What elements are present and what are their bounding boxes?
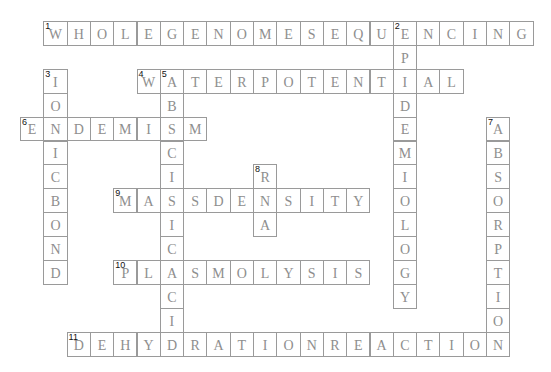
crossword-cell[interactable]: 3I [43,69,67,94]
crossword-cell[interactable]: 5A [160,69,184,94]
crossword-cell[interactable]: A [160,260,184,285]
crossword-cell[interactable]: L [439,69,463,94]
crossword-cell[interactable]: D [67,117,91,142]
crossword-cell[interactable]: P [253,69,277,94]
crossword-cell[interactable]: L [253,260,277,285]
crossword-cell[interactable]: I [300,188,324,213]
crossword-cell[interactable]: D [206,188,230,213]
crossword-cell[interactable]: O [486,308,510,333]
crossword-cell[interactable]: P [393,45,417,70]
crossword-cell[interactable]: L [113,21,137,46]
crossword-cell[interactable]: O [43,212,67,237]
crossword-cell[interactable]: G [160,21,184,46]
crossword-cell[interactable]: O [43,93,67,118]
crossword-cell[interactable]: E [206,69,230,94]
crossword-cell[interactable]: C [160,236,184,261]
crossword-cell[interactable]: T [300,69,324,94]
crossword-cell[interactable]: 10P [113,260,137,285]
crossword-cell[interactable]: 6E [20,117,44,142]
crossword-cell[interactable]: O [230,21,254,46]
crossword-cell[interactable]: A [416,69,440,94]
crossword-cell[interactable]: I [486,284,510,309]
crossword-cell[interactable]: M [393,141,417,166]
crossword-cell[interactable]: S [183,260,207,285]
crossword-cell[interactable]: T [183,69,207,94]
crossword-cell[interactable]: N [206,21,230,46]
crossword-cell[interactable]: T [486,260,510,285]
crossword-cell[interactable]: E [137,21,161,46]
crossword-cell[interactable]: I [160,164,184,189]
crossword-cell[interactable]: R [486,212,510,237]
crossword-cell[interactable]: O [276,332,300,357]
crossword-cell[interactable]: 7A [486,117,510,142]
crossword-cell[interactable]: I [160,212,184,237]
crossword-cell[interactable]: I [160,308,184,333]
crossword-cell[interactable]: B [43,188,67,213]
crossword-cell[interactable]: A [370,332,394,357]
crossword-cell[interactable]: S [276,188,300,213]
crossword-cell[interactable]: S [160,117,184,142]
crossword-cell[interactable]: D [160,332,184,357]
crossword-cell[interactable]: G [393,260,417,285]
crossword-cell[interactable]: D [393,93,417,118]
crossword-cell[interactable]: T [323,188,347,213]
crossword-cell[interactable]: S [346,260,370,285]
crossword-cell[interactable]: E [90,332,114,357]
crossword-cell[interactable]: 8R [253,164,277,189]
crossword-cell[interactable]: C [160,284,184,309]
crossword-cell[interactable]: N [486,332,510,357]
crossword-cell[interactable]: N [43,236,67,261]
crossword-cell[interactable]: M [113,117,137,142]
crossword-cell[interactable]: E [323,21,347,46]
crossword-cell[interactable]: I [253,332,277,357]
crossword-cell[interactable]: I [43,141,67,166]
crossword-cell[interactable]: O [463,332,487,357]
crossword-cell[interactable]: Y [137,332,161,357]
crossword-cell[interactable]: Y [393,284,417,309]
crossword-cell[interactable]: E [346,332,370,357]
crossword-cell[interactable]: S [300,21,324,46]
crossword-cell[interactable]: I [439,332,463,357]
crossword-cell[interactable]: E [183,21,207,46]
crossword-cell[interactable]: O [90,21,114,46]
crossword-cell[interactable]: E [276,21,300,46]
crossword-cell[interactable]: N [486,21,510,46]
crossword-cell[interactable]: I [393,164,417,189]
crossword-cell[interactable]: O [393,236,417,261]
crossword-cell[interactable]: C [43,164,67,189]
crossword-cell[interactable]: L [137,260,161,285]
crossword-cell[interactable]: S [183,188,207,213]
crossword-cell[interactable]: R [230,69,254,94]
crossword-cell[interactable]: Y [276,260,300,285]
crossword-cell[interactable]: M [253,21,277,46]
crossword-cell[interactable]: Q [346,21,370,46]
crossword-cell[interactable]: E [90,117,114,142]
crossword-cell[interactable]: T [370,69,394,94]
crossword-cell[interactable]: N [346,69,370,94]
crossword-cell[interactable]: A [253,212,277,237]
crossword-cell[interactable]: 9M [113,188,137,213]
crossword-cell[interactable]: S [160,188,184,213]
crossword-cell[interactable]: O [230,260,254,285]
crossword-cell[interactable]: S [300,260,324,285]
crossword-cell[interactable]: H [67,21,91,46]
crossword-cell[interactable]: G [509,21,533,46]
crossword-cell[interactable]: C [160,141,184,166]
crossword-cell[interactable]: A [206,332,230,357]
crossword-cell[interactable]: I [137,117,161,142]
crossword-cell[interactable]: A [137,188,161,213]
crossword-cell[interactable]: I [463,21,487,46]
crossword-cell[interactable]: R [183,332,207,357]
crossword-cell[interactable]: T [416,332,440,357]
crossword-cell[interactable]: T [230,332,254,357]
crossword-cell[interactable]: C [393,332,417,357]
crossword-cell[interactable]: U [370,21,394,46]
crossword-cell[interactable]: C [439,21,463,46]
crossword-cell[interactable]: O [393,188,417,213]
crossword-cell[interactable]: I [393,69,417,94]
crossword-cell[interactable]: 2E [393,21,417,46]
crossword-cell[interactable]: N [416,21,440,46]
crossword-cell[interactable]: B [486,141,510,166]
crossword-cell[interactable]: P [486,236,510,261]
crossword-cell[interactable]: H [113,332,137,357]
